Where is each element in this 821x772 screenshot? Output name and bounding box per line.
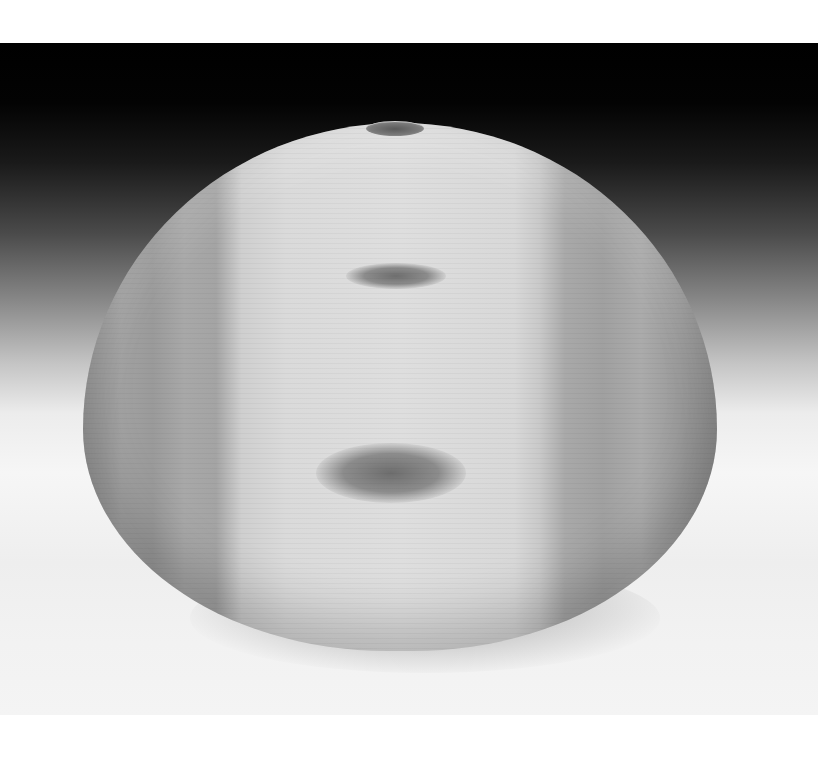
vessel-opening: [366, 121, 424, 136]
photograph: [0, 43, 818, 715]
wooden-vessel: [83, 123, 717, 651]
lower-knot: [316, 443, 466, 503]
upper-knot: [346, 263, 446, 289]
